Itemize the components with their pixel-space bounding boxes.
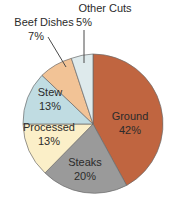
pie-chart-canvas: Ground 42% Steaks 20% Processed 13% Stew… xyxy=(0,0,181,205)
slice-label-stew-pct: 13% xyxy=(39,100,61,112)
slice-label-steaks-name: Steaks xyxy=(68,156,102,168)
slice-label-other-cuts-name: Other Cuts xyxy=(78,2,132,14)
slice-label-processed-pct: 13% xyxy=(38,135,60,147)
pie-chart-figure: Ground 42% Steaks 20% Processed 13% Stew… xyxy=(0,0,181,205)
slice-label-steaks-pct: 20% xyxy=(74,170,96,182)
slice-label-ground-pct: 42% xyxy=(119,124,141,136)
slice-label-ground-name: Ground xyxy=(112,110,149,122)
slice-label-beef-dishes-name: Beef Dishes xyxy=(14,16,74,28)
slice-label-other-cuts-pct: 5% xyxy=(76,16,92,28)
slice-label-beef-dishes-pct: 7% xyxy=(28,30,44,42)
slice-label-stew-name: Stew xyxy=(38,86,63,98)
leader-line-beef-dishes xyxy=(48,37,66,67)
slice-label-processed-name: Processed xyxy=(23,121,75,133)
